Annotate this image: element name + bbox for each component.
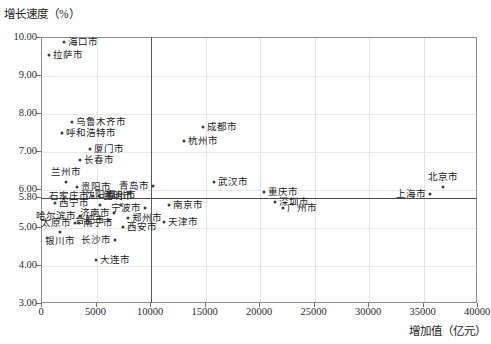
data-point-label: 广州市 [287,203,317,213]
data-point [54,202,57,205]
data-point [127,216,130,219]
gridline-vertical [369,38,370,302]
data-point [70,121,73,124]
data-point [114,238,117,241]
data-point-label: 杭州市 [188,136,218,146]
data-point [182,140,185,143]
data-point [94,259,97,262]
data-point [152,185,155,188]
x-tick-label: 35000 [409,306,435,317]
gridline-horizontal [42,266,476,267]
x-tick-label: 25000 [300,306,326,317]
x-tick-label: 40000 [464,306,490,317]
data-point-label: 天津市 [168,217,198,227]
data-point [274,200,277,203]
gridline-horizontal [42,76,476,77]
data-point [143,207,146,210]
data-point-label: 武汉市 [218,177,248,187]
gridline-vertical [315,38,316,302]
y-tick-label: 9.00 [0,69,41,80]
data-point [163,221,166,224]
data-point-label: 兰州市 [51,167,81,177]
data-point [62,41,65,44]
data-point-label: 拉萨市 [53,50,83,60]
gridline-vertical [206,38,207,302]
data-point [73,221,76,224]
y-tick-label: 10.00 [0,31,41,42]
data-point [47,54,50,57]
data-point-label: 重庆市 [268,187,298,197]
y-tick-label: 7.00 [0,145,41,156]
y-tick-label: 4.00 [0,259,41,270]
data-point-label: 西安市 [127,222,157,232]
scatter-chart: 增长速度（%） 05000100001500020000250003000035… [0,0,491,344]
data-point [89,148,92,151]
y-tick-label: 5.00 [0,221,41,232]
data-point-label: 福州市 [106,190,136,200]
data-point [58,230,61,233]
data-point-label: 海口市 [68,37,98,47]
x-tick-label: 10000 [137,306,163,317]
gridline-horizontal [42,228,476,229]
data-point-label: 南宁市 [83,217,113,227]
data-point [442,186,445,189]
y-axis-title: 增长速度（%） [4,5,80,21]
data-point [78,221,81,224]
gridline-vertical [424,38,425,302]
data-point-label: 长沙市 [81,234,111,244]
data-point [75,186,78,189]
data-point-label: 大连市 [100,255,130,265]
data-point-label: 成都市 [207,122,237,132]
x-tick-label: 5000 [85,306,106,317]
data-point-label: 上海市 [396,188,426,198]
gridline-vertical [260,38,261,302]
data-point-label: 呼和浩特市 [66,128,116,138]
reference-line-vertical [151,37,152,303]
data-point [281,207,284,210]
x-tick-label: 30000 [355,306,381,317]
data-point [263,191,266,194]
data-point [60,132,63,135]
data-point [167,203,170,206]
y-tick-label: 3.00 [0,297,41,308]
data-point-label: 银川市 [45,236,75,246]
data-point-label: 厦门市 [94,144,124,154]
data-point-label: 北京市 [428,172,458,182]
x-tick-label: 20000 [246,306,272,317]
y-tick-label: 8.00 [0,107,41,118]
x-tick-label: 15000 [191,306,217,317]
gridline-horizontal [42,114,476,115]
data-point-label: 南京市 [173,199,203,209]
gridline-vertical [97,38,98,302]
data-point [98,203,101,206]
data-point-label: 太原市 [41,217,71,227]
data-point-label: 长春市 [84,155,114,165]
data-point [213,181,216,184]
data-point [113,211,116,214]
x-axis-title: 增加值（亿元） [409,322,486,338]
data-point [429,192,432,195]
data-point [121,226,124,229]
y-tick-label: 5.80 [0,191,41,202]
data-point [202,126,205,129]
data-point [65,181,68,184]
data-point-label: 乌鲁木齐市 [76,117,126,127]
data-point [79,159,82,162]
